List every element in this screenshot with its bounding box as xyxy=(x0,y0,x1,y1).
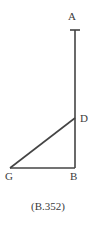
vertex-label-a: A xyxy=(68,11,76,22)
figure-caption: (B.352) xyxy=(0,200,96,213)
vertex-label-d: D xyxy=(80,113,88,124)
segment-g-d xyxy=(10,118,75,168)
geometry-figure: A D G B (B.352) xyxy=(0,0,96,229)
vertex-label-b: B xyxy=(70,171,77,182)
vertex-label-g: G xyxy=(5,171,13,182)
